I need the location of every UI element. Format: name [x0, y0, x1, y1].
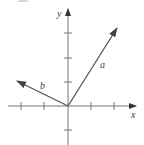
vector-a-label: a	[100, 59, 105, 70]
problem-number: 30.	[17, 0, 28, 4]
y-axis	[64, 9, 72, 145]
vector-a-arrow	[68, 28, 117, 106]
x-axis-label: x	[130, 109, 136, 120]
vector-b-label: b	[40, 80, 45, 91]
y-axis-label: y	[56, 8, 62, 19]
x-axis	[8, 102, 136, 110]
vector-diagram: 30. x y a	[0, 0, 144, 145]
coordinate-plane: x y a b	[0, 0, 144, 145]
